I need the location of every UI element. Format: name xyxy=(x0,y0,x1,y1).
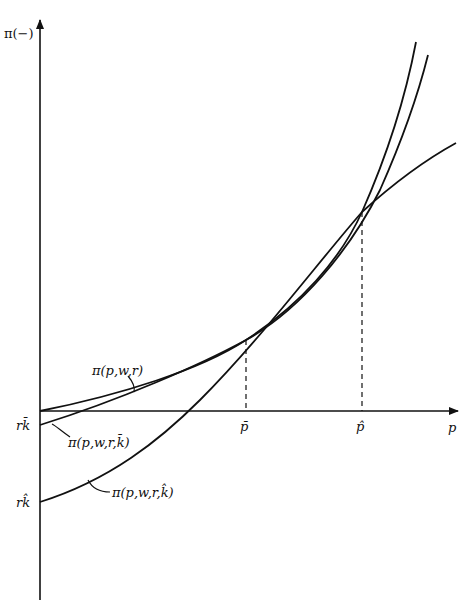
x-axis-label: p xyxy=(448,420,457,435)
label-short-run-kbar: π(p,w,r,k̄) xyxy=(67,434,130,450)
label-short-run-khat: π(p,w,r,k̂) xyxy=(111,483,174,500)
x-tick-phat: p̂ xyxy=(356,419,365,434)
x-tick-pbar: p̄ xyxy=(240,419,249,434)
y-tick-rkhat: rk̂ xyxy=(16,493,30,510)
y-axis-label: π(−) xyxy=(4,26,34,41)
y-tick-rkbar: rk̄ xyxy=(16,417,30,433)
profit-function-diagram: π(−) p p̄ p̂ rk̄ rk̂ π(p,w,r) π(p,w,r,k̄… xyxy=(0,0,471,614)
label-long-run-profit: π(p,w,r) xyxy=(91,363,143,378)
